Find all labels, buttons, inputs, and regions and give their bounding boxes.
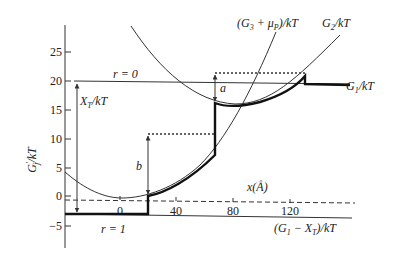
r1-label: r = 1: [101, 222, 126, 236]
g2-curve: [131, 26, 340, 104]
free-energy-chart: 25 20 15 10 5 0 −5 G′j/kT 0 40 80 120 x(…: [0, 0, 404, 259]
y-tick-neg5: −5: [49, 219, 62, 233]
g3-mup-curve: [65, 32, 276, 198]
y-tick-15: 15: [50, 103, 62, 117]
y-tick-10: 10: [50, 132, 62, 146]
a-label: a: [220, 81, 226, 95]
y-tick-0: 0: [56, 189, 62, 203]
y-tick-25: 25: [50, 45, 62, 59]
x-axis-label: x(Å): [246, 180, 268, 194]
minimum-free-energy-path: [65, 76, 350, 214]
y-tick-labels: 25 20 15 10 5 0 −5: [49, 45, 62, 233]
y-tick-20: 20: [50, 74, 62, 88]
x-ticks: [120, 196, 290, 203]
xt-label: XT/kT: [79, 94, 108, 110]
g1-minus-xt-label: (G1 − XT)/kT: [274, 221, 337, 237]
g2-label: G2/kT: [322, 16, 351, 32]
zero-dashed-line: [65, 200, 355, 203]
y-axis-label: G′j/kT: [24, 146, 41, 173]
y-tick-5: 5: [56, 161, 62, 175]
b-label: b: [136, 159, 142, 173]
x-tick-0: 0: [117, 204, 123, 218]
x-tick-120: 120: [281, 204, 299, 218]
r0-label: r = 0: [113, 67, 138, 81]
g3-mup-label: (G3 + μP)/kT: [237, 16, 299, 32]
g1-label: G1/kT: [346, 79, 375, 95]
